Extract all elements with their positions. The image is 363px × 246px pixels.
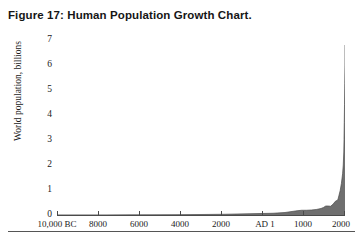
page-divider bbox=[8, 231, 355, 232]
x-tick-label: AD 1 bbox=[255, 219, 275, 229]
population-area-fill bbox=[57, 45, 345, 215]
y-tick-label: 5 bbox=[26, 85, 52, 95]
population-area-outline bbox=[57, 45, 345, 215]
x-tick bbox=[98, 211, 99, 216]
y-axis-ticks: 7 6 5 4 3 2 1 0 bbox=[22, 40, 52, 215]
x-tick bbox=[221, 211, 222, 216]
plot-area bbox=[57, 40, 345, 215]
x-tick-label: 1000 bbox=[294, 219, 312, 229]
y-tick-label: 3 bbox=[26, 135, 52, 145]
x-tick-label: 2000 bbox=[332, 219, 350, 229]
population-growth-chart: World population, billions 7 6 5 4 3 2 1… bbox=[0, 28, 363, 226]
y-tick-label: 6 bbox=[26, 60, 52, 70]
x-tick bbox=[57, 211, 58, 216]
x-tick bbox=[344, 211, 345, 216]
x-tick-label: 4000 bbox=[171, 219, 189, 229]
y-tick-label: 2 bbox=[26, 160, 52, 170]
y-tick-label: 7 bbox=[26, 35, 52, 45]
x-tick bbox=[139, 211, 140, 216]
x-tick-label: 6000 bbox=[130, 219, 148, 229]
population-curve bbox=[57, 40, 345, 215]
y-tick-label: 4 bbox=[26, 110, 52, 120]
x-tick bbox=[262, 211, 263, 216]
figure-caption: Figure 17: Human Population Growth Chart… bbox=[8, 9, 252, 21]
x-tick bbox=[180, 211, 181, 216]
x-tick bbox=[303, 211, 304, 216]
x-tick-label: 2000 bbox=[212, 219, 230, 229]
x-axis-line bbox=[57, 215, 345, 216]
x-tick-label: 8000 bbox=[89, 219, 107, 229]
y-tick-label: 1 bbox=[26, 185, 52, 195]
x-tick-label: 10,000 BC bbox=[37, 219, 76, 229]
